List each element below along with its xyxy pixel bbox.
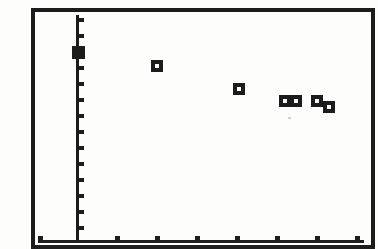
- y-axis-tick: [79, 34, 84, 38]
- y-axis-tick: [79, 162, 84, 166]
- y-axis-tick: [79, 66, 84, 70]
- y-axis-tick: [79, 130, 84, 134]
- y-axis-tick: [79, 178, 84, 182]
- data-point-marker: [233, 83, 245, 95]
- x-axis-tick: [115, 236, 120, 240]
- x-axis: [38, 240, 364, 243]
- x-axis-tick: [235, 236, 240, 240]
- data-point-marker: [151, 60, 163, 72]
- y-axis-tick: [79, 18, 84, 22]
- y-axis-tick: [79, 194, 84, 198]
- x-axis-tick: [195, 236, 200, 240]
- y-axis-tick: [79, 146, 84, 150]
- y-axis-tick: [79, 210, 84, 214]
- x-axis-tick: [38, 236, 43, 240]
- x-axis-tick: [355, 236, 360, 240]
- x-axis-tick: [275, 236, 280, 240]
- data-point-marker-filled: [72, 46, 85, 59]
- x-axis-tick: [315, 236, 320, 240]
- data-point-marker: [311, 95, 323, 107]
- calculator-scatter-plot-screen: [0, 0, 378, 249]
- y-axis-tick: [79, 226, 84, 230]
- y-axis-tick: [79, 82, 84, 86]
- scan-speck: [288, 117, 291, 119]
- y-axis-tick: [79, 98, 84, 102]
- data-point-marker: [323, 101, 335, 113]
- x-axis-tick: [155, 236, 160, 240]
- y-axis-tick: [79, 114, 84, 118]
- data-point-marker: [290, 95, 302, 107]
